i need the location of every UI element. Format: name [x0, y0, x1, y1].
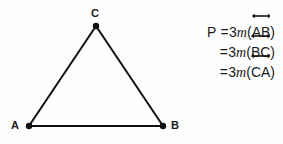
segment-notation-3: CA	[251, 62, 270, 82]
segment-notation-1: AB	[252, 22, 271, 42]
vertex-dot-c	[93, 23, 99, 29]
vertex-label-b: B	[171, 120, 179, 131]
vertex-label-c: C	[91, 8, 99, 19]
equation-measure-1: m	[237, 25, 247, 40]
equation-line-2: =3m(BC)	[190, 42, 283, 62]
equation-line-3: =3m(CA)	[190, 62, 283, 82]
perimeter-equation-block: P =3m(AB) =3m(BC) =3m(CA)	[190, 22, 283, 92]
equation-lead-3: =	[220, 64, 228, 80]
equation-close-paren-2: )	[270, 44, 275, 60]
triangle-svg	[0, 0, 190, 144]
vertex-dot-a	[26, 123, 32, 129]
segment-letters-2: BC	[251, 44, 270, 60]
vertex-dot-b	[160, 123, 166, 129]
equation-coefficient-2: 3	[228, 44, 236, 60]
equation-lead-2: =	[220, 44, 228, 60]
equation-measure-3: m	[236, 65, 246, 80]
equation-close-paren-3: )	[270, 64, 275, 80]
segment-notation-2: BC	[251, 42, 270, 62]
segment-letters-3: CA	[251, 64, 270, 80]
geometry-figure: A B C P =3m(AB) =3m(BC) =3m(CA)	[0, 0, 283, 144]
equation-measure-2: m	[236, 45, 246, 60]
triangle-outline	[29, 26, 163, 126]
triangle-diagram: A B C	[0, 0, 190, 144]
equation-coefficient-3: 3	[228, 64, 236, 80]
double-headed-arrow-icon	[252, 13, 271, 19]
equation-coefficient-1: 3	[229, 24, 237, 40]
equation-close-paren-1: )	[270, 24, 275, 40]
equation-lead-1: P =	[207, 24, 229, 40]
segment-letters-1: AB	[252, 24, 271, 40]
equation-line-1: P =3m(AB)	[190, 22, 283, 42]
vertex-label-a: A	[11, 120, 19, 131]
